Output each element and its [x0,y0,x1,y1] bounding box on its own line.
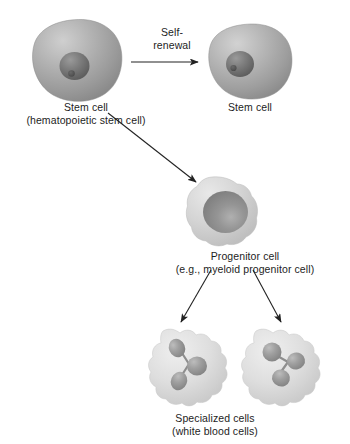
specialize-arrow-right [253,270,281,322]
self-renewal-label-line2: renewal [132,39,212,52]
diagram-canvas [0,0,350,444]
specialize-arrow-left [181,270,211,322]
self-renewal-label-line1: Self- [132,26,212,39]
self-renewal-label: Self- renewal [132,26,212,52]
progenitor-cell-label-line1: Progenitor cell [140,250,350,263]
stem-cell-right [209,24,292,99]
specialized-cell-right-lobe-1 [263,343,282,362]
specialized-cells-label-line1: Specialized cells [120,412,310,425]
stem-cell-right-nucleus [226,51,254,77]
stem-cell-right-label: Stem cell [188,101,312,114]
stem-cell-left [33,19,122,101]
stem-cell-left-label: Stem cell (hematopoietic stem cell) [0,101,172,126]
specialized-cell-right [242,329,321,406]
stem-cell-left-nucleolus [68,70,75,77]
specialized-cell-left-lobe-2 [187,357,207,376]
stem-cell-left-nucleus [60,52,90,80]
progenitor-cell [186,177,257,246]
specialized-cells-label-line2: (white blood cells) [120,425,310,438]
stem-cell-diagram: Self- renewal Stem cell (hematopoietic s… [0,0,350,444]
progenitor-cell-label-line2: (e.g., myeloid progenitor cell) [140,263,350,276]
progenitor-cell-nucleus [203,191,248,233]
stem-cell-left-label-line2: (hematopoietic stem cell) [0,114,172,127]
stem-cell-right-nucleolus [230,65,236,71]
specialized-cells-label: Specialized cells (white blood cells) [120,412,310,437]
stem-cell-left-label-line1: Stem cell [0,101,172,114]
progenitor-cell-label: Progenitor cell (e.g., myeloid progenito… [140,250,350,275]
stem-cell-right-label-line1: Stem cell [188,101,312,114]
specialized-cell-left [149,329,228,406]
